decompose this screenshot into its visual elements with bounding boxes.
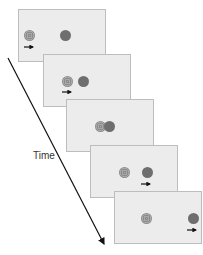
solid-disc bbox=[188, 213, 199, 224]
textured-disc bbox=[141, 213, 152, 224]
solid-disc bbox=[78, 76, 89, 87]
time-axis-label: Time bbox=[33, 150, 55, 161]
motion-arrow-icon bbox=[141, 181, 152, 187]
textured-disc bbox=[62, 76, 73, 87]
textured-disc bbox=[24, 30, 35, 41]
solid-disc bbox=[142, 167, 153, 178]
motion-arrow-icon bbox=[62, 89, 73, 95]
solid-disc bbox=[60, 30, 71, 41]
textured-disc bbox=[119, 167, 130, 178]
frame-5 bbox=[114, 191, 202, 244]
solid-disc bbox=[104, 121, 115, 132]
motion-arrow-icon bbox=[24, 44, 35, 50]
motion-arrow-icon bbox=[187, 227, 198, 233]
